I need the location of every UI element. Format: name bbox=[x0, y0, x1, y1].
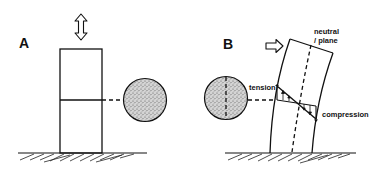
neutral-plane-label-line1: neutral bbox=[314, 27, 339, 36]
panel-b-label: B bbox=[223, 36, 233, 52]
ground-b bbox=[225, 153, 356, 163]
vertical-double-arrow-icon bbox=[75, 14, 87, 40]
panel-b: B neutral / plane bbox=[205, 27, 370, 163]
ground-a bbox=[18, 153, 147, 162]
straight-column bbox=[60, 49, 102, 153]
panel-a: A bbox=[18, 14, 167, 162]
tension-label: tension bbox=[249, 83, 276, 92]
compression-label: compression bbox=[322, 110, 369, 119]
horizontal-right-arrow-icon bbox=[266, 40, 283, 53]
neutral-plane-label-line2: / plane bbox=[314, 36, 338, 45]
stress-distribution bbox=[275, 84, 318, 122]
column-bending-diagram: A B neutra bbox=[0, 0, 384, 181]
neutral-plane-dashed bbox=[292, 45, 311, 152]
cross-section-circle-a bbox=[124, 79, 167, 122]
panel-a-label: A bbox=[19, 35, 29, 51]
